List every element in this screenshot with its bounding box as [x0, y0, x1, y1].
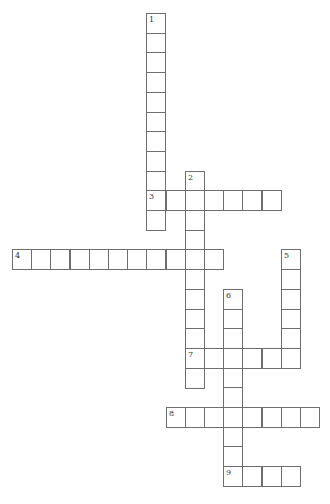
crossword-cell[interactable]	[281, 269, 301, 290]
crossword-cell[interactable]	[242, 407, 262, 428]
crossword-cell[interactable]	[185, 269, 205, 290]
crossword-cell[interactable]	[262, 466, 282, 487]
clue-number: 4	[15, 251, 20, 260]
crossword-cell[interactable]: 8	[166, 407, 186, 428]
clue-number: 6	[226, 291, 231, 300]
crossword-cell[interactable]: 3	[146, 190, 166, 211]
crossword-cell[interactable]	[146, 52, 166, 73]
crossword-cell[interactable]	[146, 33, 166, 54]
crossword-cell[interactable]	[146, 171, 166, 192]
crossword-cell[interactable]	[166, 190, 186, 211]
crossword-cell[interactable]	[223, 427, 243, 448]
crossword-cell[interactable]	[223, 348, 243, 369]
crossword-cell[interactable]: 2	[185, 171, 205, 192]
crossword-cell[interactable]	[300, 407, 320, 428]
clue-number: 9	[226, 468, 231, 477]
crossword-cell[interactable]	[146, 151, 166, 172]
crossword-cell[interactable]	[127, 249, 147, 270]
clue-number: 1	[149, 15, 154, 24]
crossword-cell[interactable]	[89, 249, 109, 270]
clue-number: 2	[188, 173, 193, 182]
crossword-cell[interactable]	[223, 387, 243, 408]
crossword-cell[interactable]	[166, 249, 186, 270]
crossword-cell[interactable]	[223, 309, 243, 330]
crossword-cell[interactable]	[204, 348, 224, 369]
crossword-cell[interactable]	[146, 249, 166, 270]
crossword-cell[interactable]: 5	[281, 249, 301, 270]
clue-number: 5	[284, 251, 289, 260]
crossword-cell[interactable]	[146, 112, 166, 133]
crossword-cell[interactable]	[31, 249, 51, 270]
crossword-cell[interactable]	[185, 289, 205, 310]
crossword-cell[interactable]: 9	[223, 466, 243, 487]
crossword-cell[interactable]	[262, 348, 282, 369]
crossword-cell[interactable]	[223, 368, 243, 389]
crossword-cell[interactable]	[108, 249, 128, 270]
clue-number: 8	[169, 409, 174, 418]
crossword-cell[interactable]	[281, 348, 301, 369]
crossword-cell[interactable]	[50, 249, 70, 270]
crossword-cell[interactable]	[204, 407, 224, 428]
crossword-cell[interactable]	[262, 190, 282, 211]
crossword-cell[interactable]	[223, 190, 243, 211]
crossword-cell[interactable]	[262, 407, 282, 428]
crossword-cell[interactable]	[281, 328, 301, 349]
crossword-cell[interactable]	[281, 309, 301, 330]
crossword-cell[interactable]	[185, 368, 205, 389]
crossword-cell[interactable]	[281, 407, 301, 428]
crossword-cell[interactable]: 7	[185, 348, 205, 369]
crossword-cell[interactable]	[185, 210, 205, 231]
crossword-cell[interactable]	[242, 190, 262, 211]
crossword-cell[interactable]	[204, 249, 224, 270]
crossword-cell[interactable]	[146, 92, 166, 113]
crossword-cell[interactable]	[223, 446, 243, 467]
crossword-cell[interactable]	[185, 190, 205, 211]
clue-number: 7	[188, 350, 193, 359]
crossword-cell[interactable]	[204, 190, 224, 211]
crossword-cell[interactable]	[242, 466, 262, 487]
crossword-cell[interactable]	[281, 289, 301, 310]
crossword-cell[interactable]	[146, 131, 166, 152]
crossword-cell[interactable]	[185, 328, 205, 349]
crossword-cell[interactable]: 4	[12, 249, 32, 270]
crossword-grid: 132745698	[0, 0, 330, 504]
crossword-cell[interactable]: 1	[146, 13, 166, 34]
clue-number: 3	[149, 192, 154, 201]
crossword-cell[interactable]	[223, 328, 243, 349]
crossword-cell[interactable]	[70, 249, 90, 270]
crossword-cell[interactable]	[146, 210, 166, 231]
crossword-cell[interactable]	[185, 407, 205, 428]
crossword-cell[interactable]: 6	[223, 289, 243, 310]
crossword-cell[interactable]	[146, 72, 166, 93]
crossword-cell[interactable]	[223, 407, 243, 428]
crossword-cell[interactable]	[281, 466, 301, 487]
crossword-cell[interactable]	[185, 230, 205, 251]
crossword-cell[interactable]	[185, 249, 205, 270]
crossword-cell[interactable]	[185, 309, 205, 330]
crossword-cell[interactable]	[242, 348, 262, 369]
